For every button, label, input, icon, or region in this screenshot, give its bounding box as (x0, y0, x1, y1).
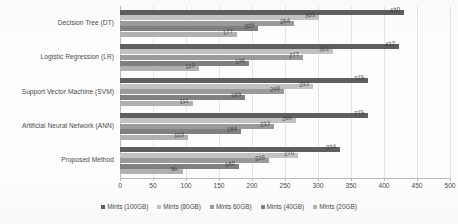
bar-row: 177 (120, 32, 450, 37)
bar-row: 184 (120, 129, 450, 134)
legend-item-4[interactable]: Mints (40GB) (261, 204, 305, 210)
category-label-5: Proposed Method (0, 157, 114, 164)
x-tick-label-450: 450 (404, 183, 430, 190)
bar (120, 78, 368, 83)
legend-item-2[interactable]: Mints (80GB) (157, 204, 201, 210)
x-tick-label-500: 500 (437, 183, 458, 190)
bar (120, 84, 313, 89)
category-axis: Decision Tree (DT)Logistic Regression (L… (0, 6, 118, 178)
legend-swatch-icon (313, 205, 317, 209)
bar-row: 375 (120, 78, 450, 83)
legend-item-1[interactable]: Mints (100GB) (101, 204, 148, 210)
legend-label: Mints (100GB) (107, 204, 148, 210)
bar-row: 266 (120, 118, 450, 123)
bar (120, 55, 303, 60)
legend-label: Mints 60GB) (216, 204, 252, 210)
legend-swatch-icon (210, 205, 214, 209)
bar-value-label: 270 (284, 149, 295, 157)
bar-group-3: 375293248189111 (120, 75, 450, 109)
x-tick-mark-500 (450, 178, 451, 181)
x-tick-mark-300 (318, 178, 319, 181)
bar (120, 158, 269, 163)
legend-label: Mints (20GB) (319, 204, 357, 210)
x-tick-mark-200 (252, 178, 253, 181)
gridline-500 (450, 6, 451, 178)
horizontal-bar-chart: Decision Tree (DT)Logistic Regression (L… (0, 0, 458, 224)
bar-row: 196 (120, 61, 450, 66)
bar-group-1: 430301264209177 (120, 6, 450, 40)
legend-item-3[interactable]: Mints 60GB) (210, 204, 252, 210)
bar-row: 248 (120, 89, 450, 94)
bar-group-4: 375266233184103 (120, 109, 450, 143)
x-tick-mark-400 (384, 178, 385, 181)
legend-label: Mints (80GB) (163, 204, 201, 210)
bar (120, 164, 239, 169)
bar-value-label: 375 (353, 109, 364, 117)
x-tick-label-300: 300 (305, 183, 331, 190)
bar (120, 32, 237, 37)
bar-group-5: 33427022618096 (120, 144, 450, 178)
x-tick-mark-50 (153, 178, 154, 181)
bar-row: 103 (120, 135, 450, 140)
bar-row: 270 (120, 153, 450, 158)
x-tick-mark-150 (219, 178, 220, 181)
legend-label: Mints (40GB) (267, 204, 305, 210)
bar-row: 264 (120, 21, 450, 26)
bar-row: 189 (120, 95, 450, 100)
bar (120, 89, 284, 94)
category-label-1: Decision Tree (DT) (0, 20, 114, 27)
category-label-3: Support Vector Machine (SVM) (0, 89, 114, 96)
bar (120, 147, 340, 152)
category-label-4: Artificial Neural Network (ANN) (0, 123, 114, 130)
legend-swatch-icon (101, 205, 105, 209)
x-tick-label-350: 350 (338, 183, 364, 190)
x-tick-label-250: 250 (272, 183, 298, 190)
x-tick-label-100: 100 (173, 183, 199, 190)
x-tick-mark-350 (351, 178, 352, 181)
bar-row: 111 (120, 101, 450, 106)
x-tick-label-0: 0 (107, 183, 133, 190)
x-tick-mark-450 (417, 178, 418, 181)
plot-area: 4303012642091774223222771961193752932481… (120, 6, 450, 178)
legend-item-5[interactable]: Mints (20GB) (313, 204, 357, 210)
bar-row: 422 (120, 44, 450, 49)
chart-legend: Mints (100GB)Mints (80GB)Mints 60GB)Mint… (0, 204, 458, 210)
x-tick-label-150: 150 (206, 183, 232, 190)
x-tick-label-50: 50 (140, 183, 166, 190)
bar-row: 430 (120, 10, 450, 15)
legend-swatch-icon (261, 205, 265, 209)
bar-row: 277 (120, 55, 450, 60)
bar-row: 322 (120, 49, 450, 54)
bar-value-label: 264 (280, 17, 291, 25)
bar (120, 113, 368, 118)
bar-group-2: 422322277196119 (120, 40, 450, 74)
x-tick-mark-250 (285, 178, 286, 181)
bar (120, 124, 274, 129)
bar-row: 119 (120, 66, 450, 71)
bar (120, 10, 404, 15)
category-label-2: Logistic Regression (LR) (0, 54, 114, 61)
bar (120, 44, 399, 49)
bar-value-label: 111 (179, 97, 189, 105)
x-tick-label-200: 200 (239, 183, 265, 190)
bar-value-label: 422 (384, 40, 395, 48)
x-tick-mark-100 (186, 178, 187, 181)
bar-row: 209 (120, 26, 450, 31)
bar-value-label: 430 (389, 6, 400, 14)
bar-row: 293 (120, 84, 450, 89)
bar-row: 96 (120, 169, 450, 174)
x-tick-label-400: 400 (371, 183, 397, 190)
x-tick-mark-0 (120, 178, 121, 181)
bar (120, 49, 333, 54)
bar (120, 26, 258, 31)
legend-swatch-icon (157, 205, 161, 209)
bar (120, 153, 298, 158)
bar (120, 21, 294, 26)
bar-row: 233 (120, 124, 450, 129)
bar-row: 226 (120, 158, 450, 163)
bar-value-label: 196 (235, 57, 246, 65)
